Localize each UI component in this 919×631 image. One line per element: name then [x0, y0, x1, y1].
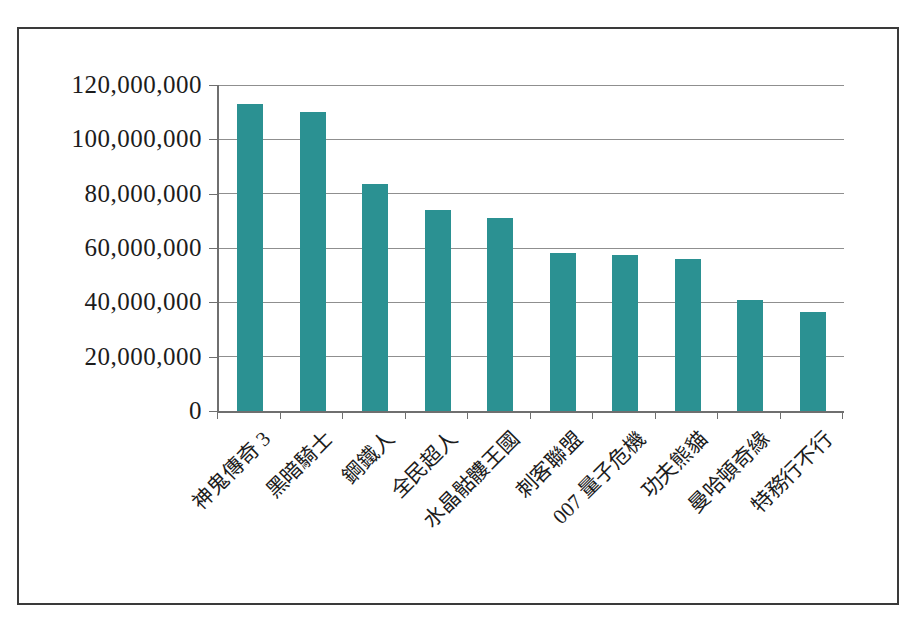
bar: [675, 259, 701, 411]
x-axis-tick: [467, 413, 468, 419]
x-axis-tick: [405, 413, 406, 419]
x-axis-tick: [280, 413, 281, 419]
bar: [800, 312, 826, 411]
y-axis-tick: [209, 194, 217, 195]
y-axis-label: 20,000,000: [19, 344, 202, 370]
x-axis-tick: [842, 413, 843, 419]
x-axis-tick: [530, 413, 531, 419]
bar: [237, 104, 263, 411]
y-axis-tick: [209, 248, 217, 249]
y-axis-label: 120,000,000: [19, 72, 202, 98]
y-axis-tick: [209, 302, 217, 303]
y-axis-tick: [209, 85, 217, 86]
plot-area: [217, 85, 844, 413]
y-axis-tick: [209, 411, 217, 412]
y-axis-label: 40,000,000: [19, 289, 202, 315]
x-axis-label: 黑暗騎士: [257, 423, 338, 504]
x-axis-tick: [655, 413, 656, 419]
x-axis-tick: [342, 413, 343, 419]
x-axis-tick: [217, 413, 218, 419]
x-axis-tick: [717, 413, 718, 419]
bar: [425, 210, 451, 411]
bar: [362, 184, 388, 411]
bar: [487, 218, 513, 411]
bar: [612, 255, 638, 411]
bar: [737, 300, 763, 411]
x-axis-tick: [780, 413, 781, 419]
chart-frame: 020,000,00040,000,00060,000,00080,000,00…: [17, 27, 899, 605]
bar: [550, 253, 576, 411]
y-axis-tick: [209, 357, 217, 358]
y-axis-tick: [209, 139, 217, 140]
x-axis-tick: [592, 413, 593, 419]
y-axis-label: 100,000,000: [19, 126, 202, 152]
y-axis-label: 80,000,000: [19, 181, 202, 207]
x-axis-label: 神鬼傳奇 3: [184, 423, 276, 515]
gridline: [219, 85, 844, 86]
bar: [300, 112, 326, 411]
y-axis-label: 60,000,000: [19, 235, 202, 261]
y-axis-label: 0: [19, 398, 202, 424]
